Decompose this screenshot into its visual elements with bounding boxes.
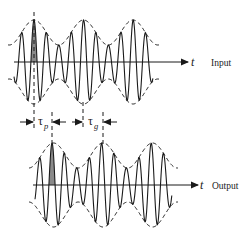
phase-delay-label: τ bbox=[38, 114, 43, 128]
input-envelope-lower bbox=[8, 79, 159, 104]
input-label: Input bbox=[211, 58, 231, 68]
input-envelope-upper bbox=[8, 20, 159, 45]
output-carrier-wave bbox=[35, 143, 172, 225]
output-axis-label: t bbox=[200, 178, 204, 192]
phase-delay-marker: τ p bbox=[20, 114, 66, 131]
output-label: Output bbox=[212, 181, 239, 191]
phase-delay-subscript: p bbox=[43, 121, 48, 131]
group-delay-marker: τ g bbox=[72, 114, 117, 131]
wave-packet-diagram: t Input τ p τ g t Output bbox=[0, 0, 248, 237]
input-axis-label: t bbox=[191, 55, 195, 69]
group-delay-subscript: g bbox=[94, 121, 98, 131]
input-panel: t Input bbox=[8, 20, 231, 104]
output-panel: t Output bbox=[29, 143, 239, 227]
group-delay-label: τ bbox=[88, 114, 93, 128]
